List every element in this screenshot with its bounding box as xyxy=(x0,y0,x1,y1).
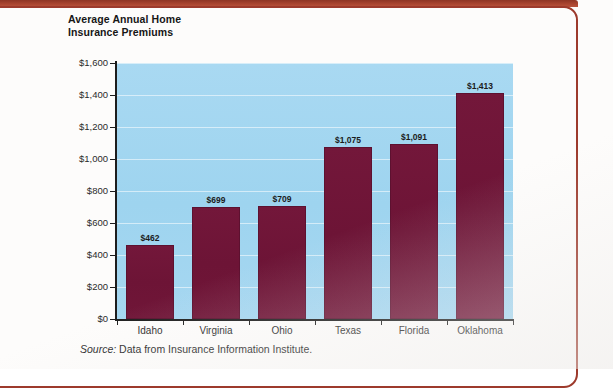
y-axis-tick xyxy=(110,63,117,64)
gridline xyxy=(117,127,513,128)
source-body: Data from Insurance Information Institut… xyxy=(119,343,312,355)
plot-area xyxy=(117,63,513,319)
x-axis-tick xyxy=(249,321,250,325)
bar-value-label: $1,091 xyxy=(374,132,454,142)
bar-texas xyxy=(324,147,372,319)
bar-value-label: $462 xyxy=(110,233,190,243)
bar-value-label: $709 xyxy=(242,194,322,204)
chart-title: Average Annual Home Insurance Premiums xyxy=(68,13,181,39)
y-axis-tick xyxy=(110,127,117,128)
gridline xyxy=(117,95,513,96)
bar-oklahoma xyxy=(456,93,504,319)
bar-florida xyxy=(390,144,438,319)
y-axis-tick xyxy=(110,191,117,192)
bar-ohio xyxy=(258,206,306,319)
y-axis-tick xyxy=(110,319,117,320)
x-axis-tick xyxy=(117,321,118,325)
y-axis-tick xyxy=(110,95,117,96)
y-axis-label: $1,600 xyxy=(58,57,108,68)
y-axis-label: $800 xyxy=(58,185,108,196)
x-axis-label-oklahoma: Oklahoma xyxy=(435,325,525,336)
source-note: Source: Data from Insurance Information … xyxy=(80,343,312,355)
y-axis-tick xyxy=(110,159,117,160)
bar-value-label: $1,413 xyxy=(440,81,520,91)
y-axis-tick xyxy=(110,287,117,288)
x-axis-tick xyxy=(447,321,448,325)
x-axis-tick xyxy=(381,321,382,325)
gridline xyxy=(117,159,513,160)
x-axis-tick xyxy=(183,321,184,325)
source-label: Source: xyxy=(80,343,116,355)
x-axis-tick xyxy=(315,321,316,325)
gridline xyxy=(117,223,513,224)
y-axis-label: $1,200 xyxy=(58,121,108,132)
bar-idaho xyxy=(126,245,174,319)
bar-virginia xyxy=(192,207,240,319)
y-axis-label: $600 xyxy=(58,217,108,228)
gridline xyxy=(117,191,513,192)
y-axis-label: $400 xyxy=(58,249,108,260)
gridline xyxy=(117,287,513,288)
y-axis-label: $1,000 xyxy=(58,153,108,164)
y-axis-tick xyxy=(110,255,117,256)
y-axis-label: $200 xyxy=(58,281,108,292)
y-axis-label: $1,400 xyxy=(58,89,108,100)
x-axis-tick xyxy=(513,321,514,325)
gridline xyxy=(117,255,513,256)
y-axis-label: $0 xyxy=(58,313,108,324)
gridline xyxy=(117,63,513,64)
y-axis-tick xyxy=(110,223,117,224)
